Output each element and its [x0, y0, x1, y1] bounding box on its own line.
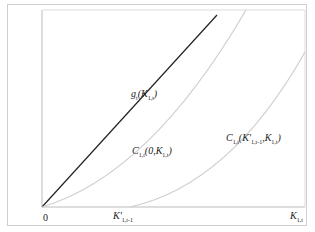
c-kprev-curve: [130, 52, 305, 207]
x-axis-label: K1,t: [290, 210, 303, 223]
plot-axes: [42, 10, 305, 207]
origin-label: 0: [43, 212, 48, 223]
c-zero-curve: [42, 10, 246, 207]
g-line: [42, 15, 217, 207]
c-zero-label: C1,t(0,K1,t): [132, 145, 172, 158]
c-kprev-label: C1,t(K'1,t-1,K1,t): [226, 132, 281, 145]
x-tick-label: K'1,t-1: [113, 210, 133, 223]
g-label: gt(K1,t): [131, 88, 157, 101]
diagram-canvas: [0, 0, 315, 232]
